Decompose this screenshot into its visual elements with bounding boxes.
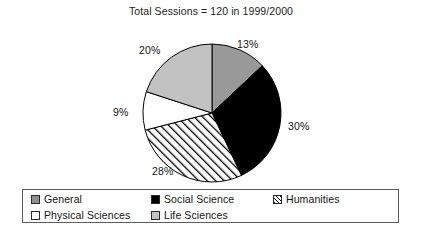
legend-item-humanities[interactable]: Humanities bbox=[273, 191, 340, 207]
slice-label-physical-sciences: 9% bbox=[113, 106, 128, 118]
slice-label-humanities: 28% bbox=[152, 165, 173, 177]
legend-label: General bbox=[44, 193, 82, 205]
legend-item-social-science[interactable]: Social Science bbox=[151, 191, 234, 207]
legend-row: GeneralSocial ScienceHumanities bbox=[23, 191, 398, 207]
pie-slices bbox=[143, 44, 281, 182]
legend-swatch-icon bbox=[31, 211, 40, 220]
legend-label: Physical Sciences bbox=[44, 209, 130, 221]
legend-row: Physical SciencesLife Sciences bbox=[23, 207, 398, 223]
slice-label-social-science: 30% bbox=[288, 120, 309, 132]
slice-label-general: 13% bbox=[237, 38, 258, 50]
pie-chart-figure: Total Sessions = 120 in 1999/2000 13%30%… bbox=[0, 0, 422, 230]
legend-label: Humanities bbox=[286, 193, 340, 205]
pie-plot-area: 13%30%28%9%20% bbox=[0, 0, 422, 186]
legend-item-physical-sciences[interactable]: Physical Sciences bbox=[31, 207, 130, 223]
legend-label: Social Science bbox=[164, 193, 234, 205]
legend-item-general[interactable]: General bbox=[31, 191, 82, 207]
legend-item-life-sciences[interactable]: Life Sciences bbox=[151, 207, 228, 223]
pie-svg bbox=[0, 0, 422, 186]
legend-swatch-icon bbox=[151, 211, 160, 220]
slice-label-life-sciences: 20% bbox=[139, 44, 160, 56]
legend-swatch-icon bbox=[151, 195, 160, 204]
chart-legend: GeneralSocial ScienceHumanities Physical… bbox=[22, 189, 399, 223]
legend-swatch-icon bbox=[31, 195, 40, 204]
legend-label: Life Sciences bbox=[164, 209, 228, 221]
legend-swatch-icon bbox=[273, 195, 282, 204]
